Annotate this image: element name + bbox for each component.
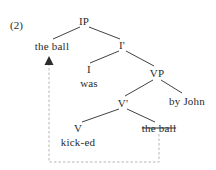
- tree-node-ip: IP: [79, 16, 89, 27]
- tree-node-trace: the ball: [142, 123, 176, 134]
- tree-branch-vbar-to-v-head: [82, 109, 119, 122]
- movement-arrowhead-icon: [45, 56, 54, 65]
- tree-branch-vp-to-by-john: [161, 80, 182, 93]
- tree-node-v-word: kick-ed: [61, 137, 95, 148]
- tree-node-vp: VP: [150, 68, 164, 79]
- tree-lines-layer: [0, 0, 216, 170]
- syntax-tree-figure: (2) IPthe ballI'IwasVPV'by JohnVkick-edt…: [0, 0, 216, 170]
- tree-node-i-head: I: [87, 64, 91, 75]
- tree-node-v-head: V: [74, 123, 82, 134]
- tree-node-i-word: was: [80, 78, 98, 89]
- tree-branch-ibar-to-vp: [126, 51, 154, 66]
- tree-node-vbar: V': [118, 98, 128, 109]
- tree-branch-vbar-to-trace: [127, 109, 155, 122]
- example-number-label: (2): [10, 20, 23, 31]
- tree-branch-ip-to-subject: [53, 27, 80, 39]
- tree-branch-ip-to-ibar: [89, 27, 120, 39]
- tree-node-subject: the ball: [35, 41, 69, 52]
- tree-node-ibar: I': [119, 40, 125, 51]
- tree-node-by-john: by John: [169, 96, 205, 107]
- tree-branch-vp-to-vbar: [125, 80, 153, 96]
- tree-branch-ibar-to-i-head: [90, 51, 119, 63]
